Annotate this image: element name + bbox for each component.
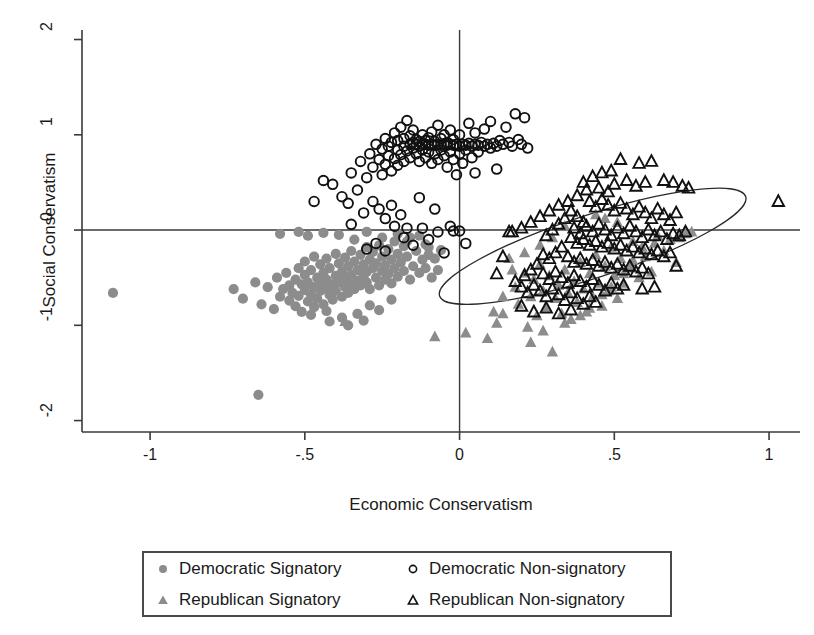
legend-box: Democratic SignatoryDemocratic Non-signa… [142,551,672,617]
legend-label: Democratic Non-signatory [429,559,626,579]
scatter-plot-figure: Social Conservatism Economic Conservatis… [0,0,814,635]
legend-entry[interactable]: Democratic Signatory [156,559,406,579]
legend-marker-open-triangle-icon [406,593,420,607]
plot-canvas [0,0,814,635]
legend-label: Republican Non-signatory [429,590,625,610]
legend-marker-filled-triangle-icon [156,593,170,607]
legend-entry[interactable]: Republican Non-signatory [406,590,676,610]
legend-marker-filled-circle-icon [156,562,170,576]
legend-entry[interactable]: Democratic Non-signatory [406,559,676,579]
series-democratic-signatory [108,227,446,400]
legend-entry[interactable]: Republican Signatory [156,590,406,610]
series-republican-non-signatory [491,153,784,318]
legend-label: Democratic Signatory [179,559,342,579]
legend-label: Republican Signatory [179,590,341,610]
data-points [108,109,784,400]
legend-grid: Democratic SignatoryDemocratic Non-signa… [144,553,670,615]
legend-marker-open-circle-icon [406,562,420,576]
